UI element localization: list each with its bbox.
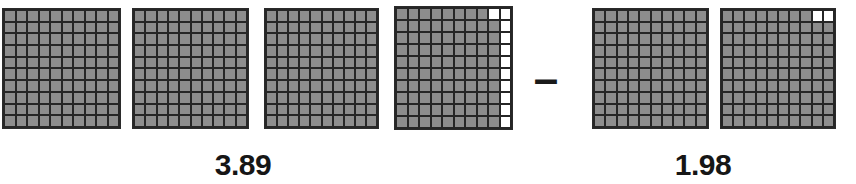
grid-cell-filled <box>39 68 51 80</box>
grid-cell-filled <box>322 68 333 80</box>
grid-cell-filled <box>722 80 733 92</box>
grid-cell-filled <box>396 92 408 104</box>
grid-cell-filled <box>744 80 755 92</box>
grid-cell-filled <box>408 92 420 104</box>
grid-cell-filled <box>733 45 744 57</box>
grid-cell-filled <box>442 116 454 128</box>
grid-cell-filled <box>366 22 377 34</box>
grid-cell-filled <box>96 22 108 34</box>
grid-cell-filled <box>477 32 489 44</box>
grid-cell-filled <box>662 57 673 69</box>
grid-cell-filled <box>722 104 733 116</box>
grid-cell-filled <box>39 104 51 116</box>
grid-cell-filled <box>16 68 28 80</box>
grid-cell-filled <box>778 22 789 34</box>
grid-cell-filled <box>442 56 454 68</box>
grid-cell-filled <box>16 33 28 45</box>
grid-cell-filled <box>39 92 51 104</box>
grid-cell-filled <box>50 22 62 34</box>
grid-cell-filled <box>454 68 466 80</box>
grid-cell-filled <box>617 22 628 34</box>
grid-cell-filled <box>756 80 767 92</box>
grid-cell-filled <box>594 115 605 127</box>
grid-cell-filled <box>4 33 16 45</box>
grid-cell-filled <box>488 56 500 68</box>
grid-cell-filled <box>27 80 39 92</box>
grid-cell-filled <box>145 22 156 34</box>
grid-cell-filled <box>684 104 695 116</box>
grid-cell-filled <box>419 80 431 92</box>
grid-cell-filled <box>696 10 707 22</box>
grid-cell-filled <box>722 92 733 104</box>
grid-cell-filled <box>756 104 767 116</box>
grid-cell-filled <box>617 115 628 127</box>
grid-cell-filled <box>744 92 755 104</box>
grid-cell-filled <box>722 57 733 69</box>
grid-cell-filled <box>16 80 28 92</box>
grid-cell-filled <box>96 115 108 127</box>
grid-cell-filled <box>310 45 321 57</box>
grid-cell-filled <box>134 57 145 69</box>
grid-cell-filled <box>465 44 477 56</box>
grid-cell-filled <box>812 80 823 92</box>
grid-cell-filled <box>617 80 628 92</box>
grid-cell-filled <box>823 115 834 127</box>
grid-cell-filled <box>651 68 662 80</box>
grid-cell-filled <box>366 10 377 22</box>
grid-cell-filled <box>322 45 333 57</box>
grid-cell-filled <box>477 104 489 116</box>
grid-cell-filled <box>333 10 344 22</box>
grid-cell-filled <box>594 68 605 80</box>
minuend-grid-1 <box>2 8 121 129</box>
grid-cell-filled <box>202 45 213 57</box>
grid-cell-filled <box>684 45 695 57</box>
grid-cell-filled <box>179 57 190 69</box>
grid-cell-filled <box>488 20 500 32</box>
grid-cell-filled <box>778 57 789 69</box>
grid-cell-filled <box>145 45 156 57</box>
grid-cell-filled <box>288 92 299 104</box>
grid-cell-filled <box>62 57 74 69</box>
grid-cell-filled <box>419 68 431 80</box>
grid-cell-filled <box>823 33 834 45</box>
grid-cell-filled <box>617 57 628 69</box>
grid-cell-filled <box>696 22 707 34</box>
grid-cell-filled <box>288 33 299 45</box>
grid-cell-filled <box>823 104 834 116</box>
grid-cell-filled <box>722 22 733 34</box>
grid-cell-filled <box>696 68 707 80</box>
grid-cell-filled <box>812 57 823 69</box>
grid-cell-filled <box>179 10 190 22</box>
grid-cell-filled <box>477 8 489 20</box>
grid-cell-filled <box>442 44 454 56</box>
grid-cell-filled <box>673 92 684 104</box>
grid-cell-filled <box>322 104 333 116</box>
grid-cell-filled <box>4 80 16 92</box>
grid-cell-filled <box>778 92 789 104</box>
grid-cell-filled <box>213 104 224 116</box>
grid-cell-filled <box>191 10 202 22</box>
grid-cell-filled <box>85 57 97 69</box>
grid-cell-filled <box>823 57 834 69</box>
grid-cell-filled <box>96 57 108 69</box>
grid-cell-filled <box>800 92 811 104</box>
grid-cell-filled <box>431 20 443 32</box>
grid-cell-filled <box>594 22 605 34</box>
grid-cell-filled <box>639 80 650 92</box>
grid-cell-filled <box>767 80 778 92</box>
grid-cell-filled <box>333 45 344 57</box>
grid-cell-filled <box>628 80 639 92</box>
grid-cell-filled <box>477 80 489 92</box>
grid-cell-filled <box>789 10 800 22</box>
grid-cell-filled <box>27 10 39 22</box>
grid-cell-filled <box>431 92 443 104</box>
grid-cell-filled <box>236 33 247 45</box>
grid-cell-empty <box>500 8 512 20</box>
grid-cell-filled <box>366 57 377 69</box>
grid-cell-filled <box>344 22 355 34</box>
grid-cell-filled <box>673 10 684 22</box>
grid-cell-filled <box>213 57 224 69</box>
grid-cell-filled <box>673 45 684 57</box>
grid-cell-filled <box>684 10 695 22</box>
grid-cell-filled <box>662 45 673 57</box>
